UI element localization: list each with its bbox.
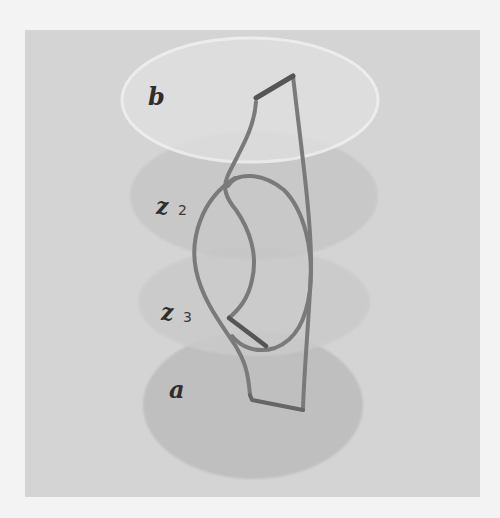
label-z3: z (160, 299, 174, 325)
label-b: b (148, 82, 165, 111)
label-z3-subscript: 3 (183, 309, 192, 325)
figure-canvas: b z 2 z 3 a (0, 0, 500, 518)
label-a: a (169, 375, 185, 404)
label-z2: z (155, 193, 169, 219)
disc-path-diagram: b z 2 z 3 a (0, 0, 500, 518)
label-z2-subscript: 2 (178, 202, 187, 218)
